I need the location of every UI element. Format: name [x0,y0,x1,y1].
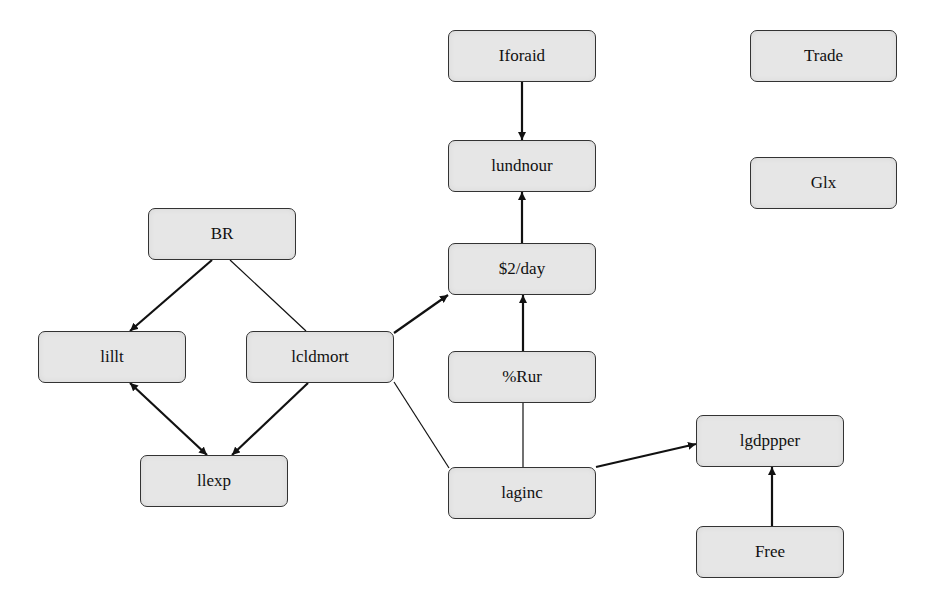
node-lgdppper[interactable]: lgdppper [696,415,844,467]
node-lcldmort[interactable]: lcldmort [246,331,394,383]
node-rur[interactable]: %Rur [448,351,596,403]
node-trade[interactable]: Trade [750,30,897,82]
node-label: lcldmort [291,347,349,367]
edge-lcldmort-llexp [232,383,308,455]
node-label: lundnour [491,156,552,176]
edge-br-lillt [130,260,212,331]
edge-br-lcldmort [230,260,306,331]
node-label: laginc [501,483,543,503]
node-label: lgdppper [740,431,800,451]
node-laginc[interactable]: laginc [448,467,596,519]
node-label: llexp [197,471,231,491]
node-label: BR [211,224,234,244]
node-label: Trade [804,46,843,66]
node-free[interactable]: Free [696,526,844,578]
edge-lillt-llexp [130,383,207,455]
node-2-per-day[interactable]: $2/day [448,243,596,295]
node-label: lillt [100,347,124,367]
node-label: %Rur [502,367,542,387]
node-label: Iforaid [499,46,545,66]
node-label: Glx [811,173,837,193]
node-lillt[interactable]: lillt [38,331,186,383]
node-br[interactable]: BR [148,208,296,260]
node-iforaid[interactable]: Iforaid [448,30,596,82]
node-llexp[interactable]: llexp [140,455,288,507]
node-lundnour[interactable]: lundnour [448,140,596,192]
node-label: Free [755,542,785,562]
edge-lcldmort-twoday [394,295,448,333]
node-glx[interactable]: Glx [750,157,897,209]
node-label: $2/day [499,259,545,279]
edge-laginc-lgdppper [596,444,696,467]
edge-lcldmort-laginc [394,382,449,468]
